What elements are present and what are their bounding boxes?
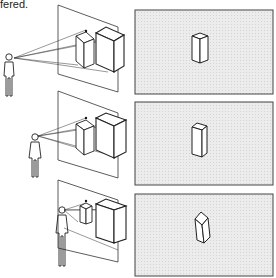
scene-row-3 (56, 180, 273, 276)
scene-row-2 (29, 91, 273, 185)
viewer-figure-2 (29, 134, 41, 177)
viewer-figure-1 (4, 54, 14, 96)
scene-row-1 (4, 5, 273, 96)
perspective-diagram (0, 0, 276, 278)
